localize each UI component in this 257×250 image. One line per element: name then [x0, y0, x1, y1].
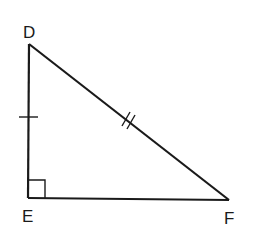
right-angle-marker	[28, 180, 45, 198]
side-ef	[28, 198, 229, 200]
vertex-label-d: D	[23, 23, 35, 42]
side-df	[29, 44, 229, 200]
triangle-diagram: D E F	[0, 0, 257, 250]
vertex-label-e: E	[22, 207, 33, 226]
vertex-label-f: F	[224, 209, 234, 228]
side-de	[28, 44, 29, 198]
